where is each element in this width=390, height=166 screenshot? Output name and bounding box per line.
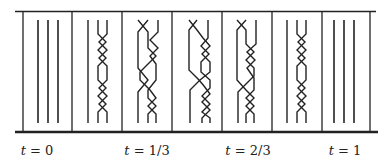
- label-t2-3: t = 2/3: [225, 143, 270, 158]
- panel-5-strands: [237, 20, 256, 123]
- panel-2-strands: [88, 20, 107, 123]
- label-t1-3: t = 1/3: [124, 143, 169, 158]
- label-t0: t = 0: [21, 143, 54, 158]
- panel-4-strands: [189, 20, 210, 123]
- label-t1: t = 1: [329, 143, 362, 158]
- panel-3-strands: [138, 20, 158, 123]
- panel-6-strands: [287, 20, 306, 123]
- braid-diagram: [0, 0, 390, 166]
- panel-7-strands: [334, 20, 354, 123]
- panel-1-strands: [38, 20, 58, 123]
